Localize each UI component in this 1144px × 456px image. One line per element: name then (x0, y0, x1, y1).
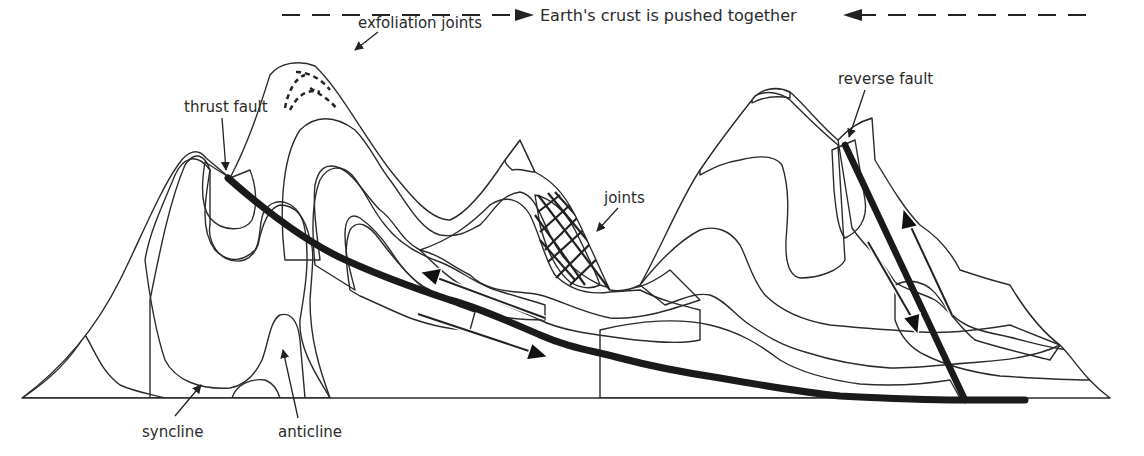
joints-zone (535, 195, 600, 288)
fault-block (838, 118, 1060, 360)
anticline-label: anticline (278, 423, 342, 441)
reverse-fault-line (845, 145, 965, 400)
label-joints: joints (597, 189, 645, 231)
exfoliation-joints-label: exfoliation joints (358, 14, 482, 32)
arrow-up-left-icon (420, 268, 442, 286)
rock-layer-light (700, 93, 845, 278)
rock-layer-dark (346, 224, 475, 330)
joints-label: joints (603, 189, 645, 207)
arrow-down-right-icon (526, 343, 548, 360)
syncline-label: syncline (142, 423, 204, 441)
arrow-up-icon (901, 208, 918, 230)
rock-layer-dark (895, 281, 1090, 380)
joints-crosshatch (535, 192, 610, 290)
label-syncline: syncline (142, 385, 204, 441)
label-reverse-fault: reverse fault (838, 70, 933, 137)
label-exfoliation-joints: exfoliation joints (355, 14, 482, 50)
rock-layer-medium (313, 168, 545, 320)
exfoliation-joint-marks (285, 72, 338, 110)
rock-layer-dark (22, 335, 165, 398)
thrust-fault-label: thrust fault (184, 98, 268, 116)
diagram-title: Earth's crust is pushed together (540, 6, 797, 25)
rock-layer-light (145, 159, 330, 398)
rock-layer-light (505, 140, 535, 172)
geology-diagram: Earth's crust is pushed together (0, 0, 1144, 456)
rock-layer-dark (232, 380, 280, 398)
reverse-fault-label: reverse fault (838, 70, 933, 88)
arrow-right-icon (515, 9, 534, 21)
